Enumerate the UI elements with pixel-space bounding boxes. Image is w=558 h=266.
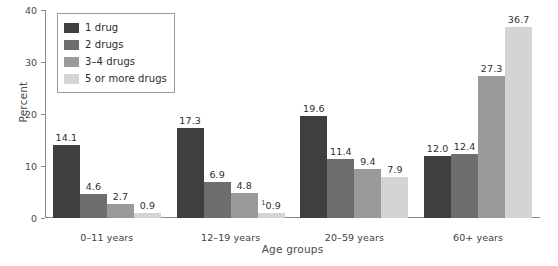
bar-value-label: 17.3	[179, 115, 201, 126]
x-axis-category-label: 20–59 years	[325, 232, 384, 243]
legend-item[interactable]: 5 or more drugs	[64, 70, 167, 87]
chart-legend: 1 drug2 drugs3–4 drugs5 or more drugs	[57, 13, 175, 93]
x-axis-category-label: 0–11 years	[80, 232, 133, 243]
bar	[107, 204, 134, 218]
y-axis-tick-label: 20	[7, 109, 37, 120]
legend-swatch-icon	[64, 57, 79, 67]
bar	[80, 194, 107, 218]
legend-item-label: 1 drug	[85, 22, 118, 33]
bar	[327, 159, 354, 218]
y-axis-tick-mark	[41, 114, 45, 115]
legend-item[interactable]: 2 drugs	[64, 36, 167, 53]
bar	[53, 145, 80, 218]
bar	[231, 193, 258, 218]
bar-value-label: 14.1	[56, 132, 78, 143]
y-axis-line	[45, 10, 46, 218]
bar-value-label: 27.3	[481, 63, 503, 74]
y-axis-tick-label: 10	[7, 161, 37, 172]
bar	[300, 116, 327, 218]
legend-item-label: 3–4 drugs	[85, 56, 135, 67]
x-axis-title: Age groups	[45, 243, 540, 255]
bar-value-label: 7.9	[387, 164, 402, 175]
bar-value-label: 2.7	[113, 191, 128, 202]
y-axis-title: Percent	[17, 57, 29, 147]
footnote-marker: 1	[261, 199, 265, 207]
bar	[204, 182, 231, 218]
bar-value-label: 4.6	[86, 181, 101, 192]
bar-value-label: 10.9	[261, 200, 281, 211]
bar	[505, 27, 532, 218]
bar-value-label: 12.4	[454, 141, 476, 152]
y-axis-tick-mark	[41, 62, 45, 63]
bar	[354, 169, 381, 218]
bar-value-label: 36.7	[508, 14, 530, 25]
bar-value-label: 12.0	[427, 143, 449, 154]
bar	[424, 156, 451, 218]
bar-value-label: 11.4	[330, 146, 352, 157]
bar	[134, 213, 161, 218]
legend-swatch-icon	[64, 74, 79, 84]
bar-value-label: 0.9	[140, 200, 155, 211]
y-axis-tick-mark	[41, 166, 45, 167]
x-axis-category-label: 60+ years	[453, 232, 503, 243]
legend-item-label: 2 drugs	[85, 39, 124, 50]
bar-value-label: 9.4	[360, 156, 375, 167]
legend-item-label: 5 or more drugs	[85, 73, 167, 84]
y-axis-tick-mark	[41, 10, 45, 11]
y-axis-tick-label: 0	[7, 213, 37, 224]
bar-value-label: 4.8	[236, 180, 251, 191]
bar-value-label: 19.6	[303, 103, 325, 114]
bar	[381, 177, 408, 218]
y-axis-tick-label: 40	[7, 5, 37, 16]
legend-item[interactable]: 1 drug	[64, 19, 167, 36]
legend-item[interactable]: 3–4 drugs	[64, 53, 167, 70]
legend-swatch-icon	[64, 40, 79, 50]
bar-chart: Percent Age groups 010203040 14.14.62.70…	[0, 0, 558, 266]
bar	[478, 76, 505, 218]
legend-swatch-icon	[64, 23, 79, 33]
bar-value-label: 6.9	[209, 169, 224, 180]
bar	[451, 154, 478, 218]
y-axis-tick-mark	[41, 218, 45, 219]
bar	[258, 213, 285, 218]
x-axis-category-label: 12–19 years	[201, 232, 260, 243]
bar	[177, 128, 204, 218]
y-axis-tick-label: 30	[7, 57, 37, 68]
